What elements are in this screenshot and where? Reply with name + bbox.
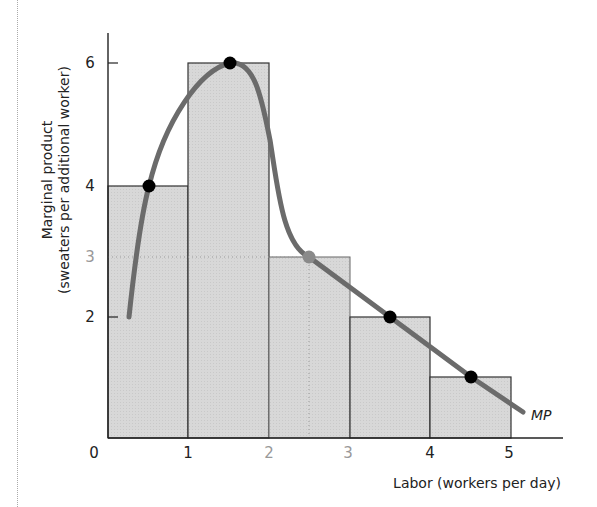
x-tick-label-3: 3: [343, 444, 353, 462]
bar-2: [188, 63, 269, 438]
x-tick-label-4: 4: [425, 444, 435, 462]
y-axis-title-line-1: Marginal product: [39, 120, 55, 239]
mp-point-3: [303, 251, 316, 264]
x-tick-label-0: 0: [89, 444, 99, 462]
y-tick-label-4: 4: [85, 177, 95, 195]
marginal-product-chart: 6 4 3 2 0 1 2 3 4 5 MP Labor (workers pe…: [0, 0, 597, 507]
y-tick-label-2: 2: [85, 308, 95, 326]
bar-3: [269, 257, 350, 438]
y-tick-label-3: 3: [85, 248, 95, 266]
mp-point-2: [224, 57, 237, 70]
bar-5: [430, 377, 511, 438]
mp-point-5: [465, 371, 478, 384]
x-tick-label-1: 1: [183, 444, 193, 462]
mp-point-4: [384, 311, 397, 324]
x-tick-label-2: 2: [264, 444, 274, 462]
x-axis-title: Labor (workers per day): [393, 475, 561, 491]
y-axis-title-line-2: (sweaters per additional worker): [56, 66, 72, 294]
mp-curve-label: MP: [531, 407, 552, 423]
mp-point-1: [143, 180, 156, 193]
bar-1: [108, 186, 188, 438]
y-tick-label-6: 6: [85, 54, 95, 72]
x-tick-label-5: 5: [504, 444, 514, 462]
